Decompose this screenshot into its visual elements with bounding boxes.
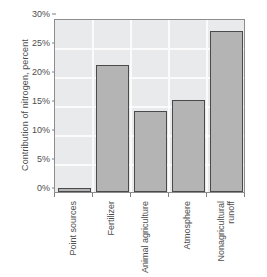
x-tick-label-point-sources: Point sources bbox=[68, 201, 78, 256]
y-tick-label: 20% bbox=[32, 67, 50, 77]
bar-animal-agriculture bbox=[134, 111, 167, 192]
bar-nonagricultural-runoff bbox=[210, 31, 243, 192]
x-tick-label-nonagricultural-runoff: Nonagricultural runoff bbox=[216, 201, 236, 275]
x-tick-mark bbox=[244, 193, 245, 197]
y-tick-label: 0% bbox=[37, 183, 50, 193]
x-tick-mark bbox=[92, 193, 93, 197]
bar-fertilizer bbox=[96, 65, 129, 192]
x-tick-mark bbox=[168, 193, 169, 197]
y-axis-ticks: 30% 25% 20% 15% 10% 5% 0% bbox=[24, 14, 50, 194]
x-tick-label-fertilizer: Fertilizer bbox=[106, 201, 116, 236]
x-tick-label-atmosphere: Atmosphere bbox=[182, 201, 192, 250]
y-tick-label: 5% bbox=[37, 154, 50, 164]
bar-chart: Contribution of nitrogen, percent 30% 25… bbox=[0, 0, 267, 277]
y-tick-label: 25% bbox=[32, 38, 50, 48]
y-tick-mark bbox=[52, 14, 56, 15]
plot-area bbox=[54, 19, 245, 193]
y-tick-label: 15% bbox=[32, 96, 50, 106]
x-tick-mark bbox=[206, 193, 207, 197]
y-tick-label: 10% bbox=[32, 125, 50, 135]
bar-series bbox=[55, 20, 244, 192]
y-tick-label: 30% bbox=[32, 9, 50, 19]
bar-point-sources bbox=[58, 188, 91, 192]
x-axis: Point sources Fertilizer Animal agricult… bbox=[54, 193, 245, 277]
x-tick-mark bbox=[130, 193, 131, 197]
bar-atmosphere bbox=[172, 100, 205, 192]
x-tick-label-animal-agriculture: Animal agriculture bbox=[140, 201, 150, 275]
plot-inner bbox=[55, 20, 244, 192]
x-tick-mark bbox=[54, 193, 55, 197]
